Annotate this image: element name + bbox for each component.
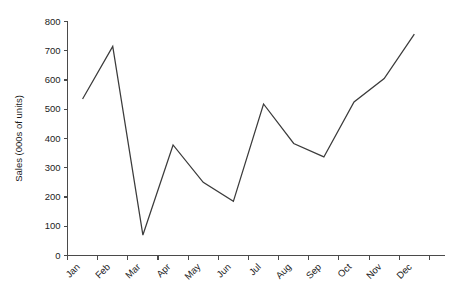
y-axis-tick-label: 400 xyxy=(45,133,61,144)
chart-plot-area: 0100200300400500600700800 JanFebMarAprMa… xyxy=(0,0,464,301)
x-axis-tick-label: Nov xyxy=(364,261,384,281)
x-axis-tick-label: Mar xyxy=(123,261,142,280)
y-axis-tick-label: 300 xyxy=(45,162,61,173)
series-line-sales xyxy=(83,34,415,235)
y-axis: 0100200300400500600700800 xyxy=(45,16,68,261)
y-axis-title-text: Sales (000s of units) xyxy=(13,95,24,182)
y-axis-tick-label: 600 xyxy=(45,74,61,85)
x-axis: JanFebMarAprMayJunJulAugSepOctNovDec xyxy=(63,256,444,282)
line-chart: 0100200300400500600700800 JanFebMarAprMa… xyxy=(0,0,464,301)
y-axis-title: Sales (000s of units) xyxy=(13,95,24,182)
x-axis-tick-label: Jan xyxy=(63,261,82,280)
x-axis-tick-label: Aug xyxy=(273,261,293,281)
x-axis-tick-label: May xyxy=(182,261,203,282)
y-axis-tick-label: 700 xyxy=(45,45,61,56)
y-axis-tick-label: 100 xyxy=(45,220,61,231)
x-axis-tick-label: Oct xyxy=(335,261,353,279)
y-axis-tick-label: 800 xyxy=(45,16,61,27)
x-axis-tick-label: Jun xyxy=(214,261,233,280)
series-sales xyxy=(83,34,415,235)
y-axis-tick-label: 500 xyxy=(45,103,61,114)
x-axis-tick-label: Jul xyxy=(247,261,263,277)
y-axis-tick-label: 200 xyxy=(45,191,61,202)
x-axis-tick-label: Apr xyxy=(154,261,172,279)
x-axis-tick-label: Sep xyxy=(304,261,324,281)
x-axis-tick-label: Feb xyxy=(93,261,112,280)
x-axis-tick-label: Dec xyxy=(394,261,414,281)
y-axis-tick-label: 0 xyxy=(55,250,60,261)
